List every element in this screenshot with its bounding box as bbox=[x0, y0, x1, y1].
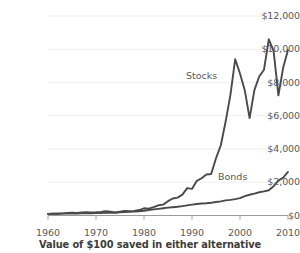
y-axis-tick-label: $10,000 bbox=[256, 44, 300, 54]
x-axis-tick-label: 1960 bbox=[36, 228, 60, 238]
chart-container: $0$2,000$4,000$6,000$8,000$10,000$12,000… bbox=[0, 0, 300, 253]
series-line-bonds bbox=[48, 172, 288, 214]
y-axis-tick-label: $0 bbox=[256, 211, 300, 221]
chart-caption: Value of $100 saved in either alternativ… bbox=[0, 240, 300, 250]
y-axis-tick-label: $8,000 bbox=[256, 78, 300, 88]
y-axis-tick-label: $2,000 bbox=[256, 177, 300, 187]
line-chart-plot bbox=[0, 0, 300, 253]
x-axis-tick-label: 1970 bbox=[84, 228, 108, 238]
x-axis-tick-label: 1980 bbox=[132, 228, 156, 238]
series-annotation-stocks: Stocks bbox=[186, 71, 217, 81]
x-axis-tick-label: 1990 bbox=[180, 228, 204, 238]
series-line-stocks bbox=[48, 39, 288, 214]
series-annotation-bonds: Bonds bbox=[218, 172, 247, 182]
x-axis-tick-label: 2010 bbox=[276, 228, 300, 238]
y-axis-tick-label: $12,000 bbox=[256, 11, 300, 21]
x-axis-tick-label: 2000 bbox=[228, 228, 252, 238]
x-axis-ticks bbox=[48, 216, 288, 220]
y-axis-tick-label: $4,000 bbox=[256, 144, 300, 154]
y-axis-tick-label: $6,000 bbox=[256, 111, 300, 121]
